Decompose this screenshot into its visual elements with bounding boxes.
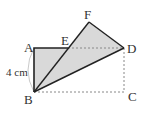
label-d: D: [127, 41, 136, 56]
measure-label: 4 cm: [6, 66, 28, 78]
label-a: A: [24, 40, 34, 55]
geometry-figure: A E F D B C 4 cm: [0, 0, 144, 114]
label-e: E: [61, 33, 69, 48]
label-f: F: [84, 7, 91, 22]
diagram: A E F D B C 4 cm: [0, 0, 144, 114]
label-c: C: [128, 89, 137, 104]
label-b: B: [24, 92, 33, 107]
